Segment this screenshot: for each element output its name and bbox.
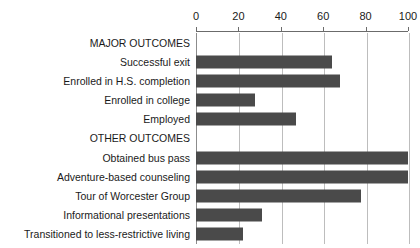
chart-bar-row: Tour of Worcester Group <box>0 186 420 205</box>
x-axis-tick-mark <box>408 27 409 31</box>
bar-category-label: Employed <box>143 113 190 125</box>
bar <box>196 94 255 107</box>
bar-category-label: Transitioned to less-restrictive living <box>24 228 190 240</box>
bar-category-label: Enrolled in H.S. completion <box>63 75 190 87</box>
chart-bar-row: Successful exit <box>0 52 420 71</box>
x-axis-tick-label: 80 <box>359 10 371 23</box>
bar-chart: 020406080100 MAJOR OUTCOMESSuccessful ex… <box>0 0 420 248</box>
chart-bar-row: Obtained bus pass <box>0 148 420 167</box>
group-header-label: OTHER OUTCOMES <box>90 132 190 144</box>
bar-category-label: Successful exit <box>120 56 190 68</box>
chart-bar-row: Adventure-based counseling <box>0 167 420 186</box>
x-axis-tick-label: 60 <box>317 10 329 23</box>
bar <box>196 209 262 222</box>
chart-bar-row: Enrolled in college <box>0 91 420 110</box>
chart-group-header-row: OTHER OUTCOMES <box>0 129 420 148</box>
group-header-label: MAJOR OUTCOMES <box>90 37 190 49</box>
x-axis-tick-mark <box>238 27 239 31</box>
x-axis-tick-label: 40 <box>275 10 287 23</box>
bar <box>196 55 332 68</box>
bar-category-label: Adventure-based counseling <box>57 171 190 183</box>
x-axis-tick-mark <box>281 27 282 31</box>
bar <box>196 151 408 164</box>
x-axis-tick-label: 100 <box>399 10 417 23</box>
bar <box>196 228 243 241</box>
bar-category-label: Informational presentations <box>63 209 190 221</box>
x-axis-line <box>196 31 408 32</box>
chart-bar-row: Employed <box>0 110 420 129</box>
x-axis-tick-labels: 020406080100 <box>0 10 420 26</box>
chart-rows: MAJOR OUTCOMESSuccessful exitEnrolled in… <box>0 33 420 244</box>
x-axis-tick-mark <box>366 27 367 31</box>
bar-category-label: Tour of Worcester Group <box>75 190 190 202</box>
bar-category-label: Obtained bus pass <box>102 152 190 164</box>
bar <box>196 170 408 183</box>
bar <box>196 74 340 87</box>
chart-group-header-row: MAJOR OUTCOMES <box>0 33 420 52</box>
x-axis-tick-label: 20 <box>232 10 244 23</box>
bar <box>196 189 361 202</box>
x-axis-tick-label: 0 <box>193 10 199 23</box>
chart-bar-row: Informational presentations <box>0 206 420 225</box>
bar <box>196 113 296 126</box>
x-axis-tick-mark <box>196 27 197 31</box>
chart-bar-row: Transitioned to less-restrictive living <box>0 225 420 244</box>
bar-category-label: Enrolled in college <box>104 94 190 106</box>
chart-bar-row: Enrolled in H.S. completion <box>0 71 420 90</box>
x-axis-tick-mark <box>323 27 324 31</box>
